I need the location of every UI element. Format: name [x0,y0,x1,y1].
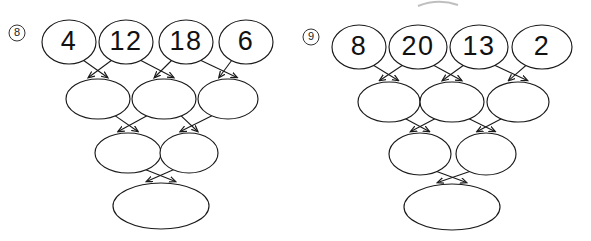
pyramid-arrow [380,65,403,81]
pyramid-arrow [411,118,436,131]
pyramid-cell-outline [95,133,161,173]
worksheet-canvas: 412186820132 89 [0,0,591,241]
pyramid-cell-blank[interactable] [198,79,258,119]
pyramid-cell-outline [420,82,484,122]
pyramid-cell-outline [132,79,196,119]
pyramid-cell-outline [66,79,130,119]
pyramid-arrow [405,118,429,131]
pyramid-cell-blank[interactable] [160,133,218,173]
pyramid-cell-outline [487,82,549,122]
pyramid-cell-filled: 8 [332,25,386,69]
pyramid-cell-outline [198,79,258,119]
pyramid-cell-filled: 2 [512,25,572,69]
pyramid-arrow [433,65,462,81]
clipped-ellipse-smudge-icon [418,2,458,6]
pyramid-cell-outline [404,184,500,230]
pyramid-cell-filled: 12 [99,20,153,64]
pyramid-cell-blank[interactable] [113,183,209,229]
pyramid-cell-blank[interactable] [404,184,500,230]
pyramid-cell-value: 8 [351,31,368,61]
pyramid-arrow [83,60,108,78]
pyramid-cell-value: 6 [238,26,255,56]
pyramid-cell-outline [358,82,420,122]
pyramid-cell-outline [456,133,516,175]
pyramid-cell-blank[interactable] [487,82,549,122]
pyramid-cell-blank[interactable] [456,133,516,175]
problem-number-badge: 9 [303,29,319,45]
pyramid-arrow [442,65,464,81]
pyramid-cell-filled: 18 [159,20,213,64]
pyramid-cell-value: 13 [462,31,495,61]
pyramid-arrow [180,115,212,131]
pyramid-cell-blank[interactable] [358,82,420,122]
problem-number-text: 9 [308,30,314,42]
pyramid-cell-value: 2 [534,31,551,61]
pyramid-cell-blank[interactable] [66,79,130,119]
pyramid-cell-outline [389,133,451,175]
pyramid-arrow [436,171,466,182]
pyramid-cell-filled: 4 [42,20,96,64]
pyramid-cell-blank[interactable] [420,82,484,122]
pyramid-arrow [118,115,147,131]
pyramid-arrow [200,60,237,78]
pyramid-cell-filled: 13 [450,25,508,69]
problem-number-text: 8 [14,26,20,38]
pyramid-cell-blank[interactable] [95,133,161,173]
pyramid-cell-outline [160,133,218,173]
problem-number-badge: 8 [9,25,25,41]
pyramid-cell-value: 18 [169,26,202,56]
pyramid-cell-filled: 20 [389,25,447,69]
pyramid-arrow [438,171,471,182]
pyramid-arrow [115,115,138,131]
pyramid-arrow [88,60,112,78]
pyramid-arrow [373,65,398,81]
ellipse-layer: 412186820132 [42,20,572,230]
pyramid-cell-value: 4 [61,26,78,56]
pyramid-cell-value: 20 [401,31,434,61]
pyramid-cell-outline [113,183,209,229]
number-pyramid-diagram: 412186820132 89 [0,0,591,241]
pyramid-cell-filled: 6 [219,20,273,64]
pyramid-arrow [219,60,232,78]
pyramid-cell-blank[interactable] [389,133,451,175]
pyramid-cell-value: 12 [109,26,142,56]
clipped-ellipse-smudge-icon [418,2,458,6]
pyramid-cell-blank[interactable] [132,79,196,119]
